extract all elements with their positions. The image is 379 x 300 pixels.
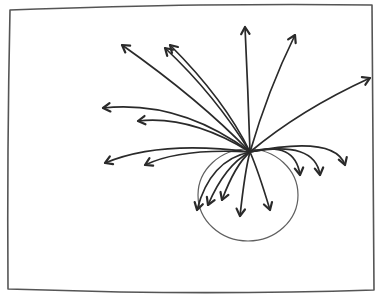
arrow-shaft bbox=[170, 45, 250, 152]
arrow-shaft bbox=[250, 152, 270, 210]
arrow-shaft bbox=[250, 149, 320, 175]
sketch-canvas bbox=[0, 0, 379, 300]
arrow-shaft bbox=[250, 78, 370, 152]
arrow-shaft bbox=[165, 48, 250, 152]
arrow-shaft bbox=[245, 27, 250, 152]
arrow-shaft bbox=[250, 146, 345, 165]
